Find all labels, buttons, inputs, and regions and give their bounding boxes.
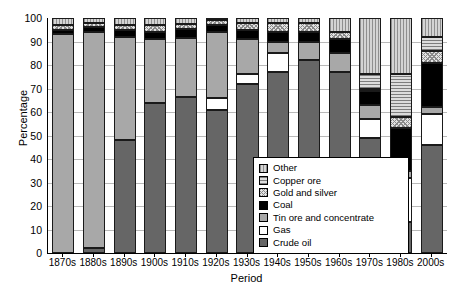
bar-segment <box>206 25 228 32</box>
bar-segment <box>236 39 258 74</box>
stacked-bar-chart-figure: Percentage 0102030405060708090100 1870s1… <box>0 0 460 305</box>
bar-1880s <box>83 18 105 253</box>
bar-segment <box>114 18 136 25</box>
bar-segment <box>144 18 166 25</box>
bar-segment <box>329 32 351 39</box>
legend-swatch-coal <box>259 201 268 210</box>
x-tick-1940s: 1940s <box>260 257 294 268</box>
bar-segment <box>206 18 228 20</box>
bar-segment <box>421 37 443 51</box>
bar-segment <box>421 114 443 145</box>
legend-item-gold[interactable]: Gold and silver <box>259 187 403 199</box>
bar-segment <box>421 51 443 63</box>
y-tick-10: 10 <box>16 225 42 235</box>
legend-swatch-tin <box>259 213 268 222</box>
bar-segment <box>206 98 228 110</box>
bar-segment <box>175 24 197 29</box>
legend-swatch-oil <box>259 238 268 247</box>
y-tick-70: 70 <box>16 84 42 94</box>
legend-swatch-other <box>259 164 268 173</box>
bar-segment <box>421 145 443 253</box>
bar-segment <box>267 42 289 54</box>
y-tick-40: 40 <box>16 154 42 164</box>
x-tick-1880s: 1880s <box>76 257 110 268</box>
x-tick-1910s: 1910s <box>168 257 202 268</box>
bar-segment <box>144 32 166 39</box>
x-tick-1970s: 1970s <box>352 257 386 268</box>
legend-label-tin: Tin ore and concentrate <box>273 213 374 223</box>
bar-segment <box>359 18 381 74</box>
bar-segment <box>144 39 166 102</box>
bar-1920s <box>206 18 228 253</box>
legend-item-copper[interactable]: Copper ore <box>259 174 403 186</box>
bar-segment <box>359 74 381 88</box>
bar-segment <box>206 20 228 25</box>
bar-segment <box>298 23 320 32</box>
bar-segment <box>421 18 443 37</box>
bar-segment <box>329 53 351 72</box>
bar-segment <box>236 23 258 30</box>
chart-legend: OtherCopper oreGold and silverCoalTin or… <box>253 157 409 254</box>
bar-segment <box>114 30 136 37</box>
bar-segment <box>298 18 320 23</box>
bar-segment <box>421 63 443 108</box>
bar-segment <box>236 74 258 83</box>
bar-segment <box>114 25 136 30</box>
bar-segment <box>52 25 74 30</box>
bar-segment <box>144 25 166 32</box>
bar-segment <box>359 119 381 138</box>
bar-segment <box>83 248 105 253</box>
x-tick-1930s: 1930s <box>230 257 264 268</box>
x-tick-2000s: 2000s <box>414 257 448 268</box>
legend-label-gold: Gold and silver <box>273 188 337 198</box>
x-tick-1980s: 1980s <box>383 257 417 268</box>
x-tick-1950s: 1950s <box>291 257 325 268</box>
bar-segment <box>390 74 412 116</box>
bar-segment <box>298 42 320 61</box>
bar-1910s <box>175 18 197 253</box>
bar-segment <box>83 32 105 248</box>
legend-item-tin[interactable]: Tin ore and concentrate <box>259 212 403 224</box>
bar-segment <box>329 39 351 53</box>
bar-segment <box>83 23 105 28</box>
bar-segment <box>83 27 105 32</box>
y-tick-60: 60 <box>16 107 42 117</box>
bar-segment <box>206 32 228 98</box>
bar-2000s <box>421 18 443 253</box>
bar-segment <box>390 117 412 129</box>
legend-item-other[interactable]: Other <box>259 162 403 174</box>
legend-label-coal: Coal <box>273 200 293 210</box>
y-tick-100: 100 <box>16 13 42 23</box>
y-tick-20: 20 <box>16 201 42 211</box>
bar-segment <box>359 91 381 105</box>
bar-1900s <box>144 18 166 253</box>
bar-segment <box>236 30 258 39</box>
bar-1870s <box>52 18 74 253</box>
legend-item-gas[interactable]: Gas <box>259 224 403 236</box>
bar-segment <box>329 18 351 32</box>
x-axis-title: Period <box>47 272 446 284</box>
bar-segment <box>298 32 320 41</box>
bar-segment <box>236 18 258 23</box>
bar-segment <box>421 107 443 114</box>
legend-swatch-gold <box>259 188 268 197</box>
bar-segment <box>267 32 289 41</box>
x-tick-1870s: 1870s <box>45 257 79 268</box>
legend-item-oil[interactable]: Crude oil <box>259 236 403 248</box>
y-tick-80: 80 <box>16 60 42 70</box>
legend-item-coal[interactable]: Coal <box>259 199 403 211</box>
bar-segment <box>114 140 136 253</box>
bar-segment <box>390 18 412 74</box>
bar-segment <box>52 34 74 253</box>
y-axis-tick-labels: 0102030405060708090100 <box>12 0 42 305</box>
legend-label-oil: Crude oil <box>273 238 311 248</box>
bar-segment <box>52 30 74 35</box>
bar-segment <box>114 37 136 140</box>
y-tick-0: 0 <box>16 248 42 258</box>
y-tick-50: 50 <box>16 131 42 141</box>
bar-segment <box>52 18 74 25</box>
y-tick-90: 90 <box>16 37 42 47</box>
x-tick-1900s: 1900s <box>137 257 171 268</box>
bar-segment <box>267 18 289 23</box>
legend-label-copper: Copper ore <box>273 176 321 186</box>
